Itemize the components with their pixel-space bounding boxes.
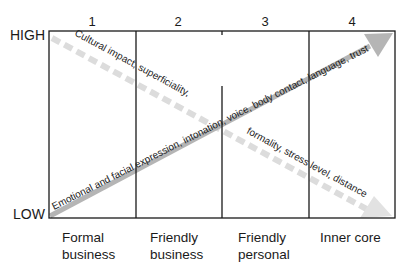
high-label: HIGH xyxy=(10,27,45,43)
category-2-line2: business xyxy=(150,247,204,262)
category-3-line2: personal xyxy=(238,247,290,262)
category-3-line1: Friendly xyxy=(238,230,286,245)
column-number-1: 1 xyxy=(88,14,95,29)
decreasing-arrow-text-lower: formality, stress level, distance xyxy=(245,125,370,199)
category-1-line2: business xyxy=(62,247,116,262)
column-number-3: 3 xyxy=(261,14,268,29)
column-number-2: 2 xyxy=(174,14,181,29)
column-number-4: 4 xyxy=(348,14,355,29)
low-label: LOW xyxy=(13,206,46,222)
decreasing-arrow-text-upper: Cultural impact, superficiality, xyxy=(73,27,192,98)
category-2-line1: Friendly xyxy=(150,230,198,245)
category-4-line1: Inner core xyxy=(320,230,381,245)
communication-diagram: HIGH LOW 1 2 3 4 Formal business Friendl… xyxy=(0,0,405,265)
category-1-line1: Formal xyxy=(62,230,104,245)
